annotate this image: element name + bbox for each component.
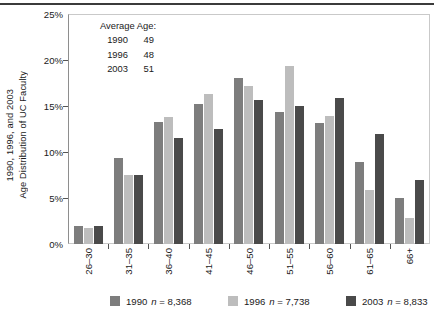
annotation-value: 49 bbox=[128, 33, 154, 47]
legend-n-value: n = 8,833 bbox=[387, 296, 427, 307]
annotation-value: 51 bbox=[128, 62, 154, 76]
legend-item[interactable]: 2003n = 8,833 bbox=[346, 296, 428, 307]
y-axis-title: 1990, 1996, and 2003 Age Distribution of… bbox=[2, 30, 32, 240]
bar bbox=[244, 86, 253, 244]
y-axis-tick-label: 0% bbox=[30, 239, 63, 250]
legend-swatch bbox=[346, 296, 356, 306]
bar bbox=[335, 98, 344, 244]
y-axis-tick-label: 5% bbox=[30, 193, 63, 204]
bar bbox=[375, 134, 384, 244]
bar-group bbox=[309, 14, 349, 244]
legend-swatch bbox=[110, 296, 120, 306]
bar bbox=[114, 158, 123, 244]
bar bbox=[415, 180, 424, 244]
bar bbox=[84, 228, 93, 244]
bar bbox=[124, 175, 133, 244]
annotation-title: Average Age: bbox=[100, 19, 156, 33]
bar bbox=[405, 218, 414, 244]
bar bbox=[295, 106, 304, 244]
bar-group bbox=[269, 14, 309, 244]
annotation-value: 48 bbox=[128, 48, 154, 62]
bar-group bbox=[189, 14, 229, 244]
bar bbox=[194, 104, 203, 244]
y-axis-tick-label: 15% bbox=[30, 101, 63, 112]
bar bbox=[325, 116, 334, 244]
legend-label: 1996 bbox=[244, 296, 265, 307]
annotation-row: 200351 bbox=[92, 62, 156, 76]
bar bbox=[395, 198, 404, 244]
bar bbox=[365, 190, 374, 244]
annotation-rows: 199049199648200351 bbox=[92, 33, 156, 76]
y-axis-title-line-1: Age Distribution of UC Faculty bbox=[17, 71, 30, 199]
bar bbox=[74, 226, 83, 244]
bar bbox=[204, 94, 213, 244]
y-axis-tick-label: 10% bbox=[30, 147, 63, 158]
legend-n-value: n = 7,738 bbox=[269, 296, 309, 307]
annotation-row: 199648 bbox=[92, 48, 156, 62]
bar bbox=[214, 129, 223, 244]
annotation-year: 1996 bbox=[92, 48, 128, 62]
legend-label: 1990 bbox=[126, 296, 147, 307]
bar bbox=[315, 123, 324, 244]
bar bbox=[164, 117, 173, 244]
legend-swatch bbox=[228, 296, 238, 306]
bar bbox=[154, 122, 163, 244]
bar bbox=[174, 138, 183, 244]
annotation-year: 1990 bbox=[92, 33, 128, 47]
bar bbox=[134, 175, 143, 244]
average-age-annotation: Average Age: 199049199648200351 bbox=[92, 19, 156, 77]
top-divider-rule bbox=[0, 3, 434, 5]
legend-item[interactable]: 1996n = 7,738 bbox=[228, 296, 310, 307]
annotation-year: 2003 bbox=[92, 62, 128, 76]
legend-n-value: n = 8,368 bbox=[151, 296, 191, 307]
bar bbox=[275, 112, 284, 244]
bar-group bbox=[229, 14, 269, 244]
bar bbox=[94, 226, 103, 244]
bar-group bbox=[390, 14, 430, 244]
bar-group bbox=[350, 14, 390, 244]
bar bbox=[285, 66, 294, 244]
y-axis-tick-labels: 0%5%10%15%20%25% bbox=[30, 0, 63, 315]
bar bbox=[234, 78, 243, 244]
annotation-row: 199049 bbox=[92, 33, 156, 47]
bar bbox=[355, 162, 364, 244]
legend-item[interactable]: 1990n = 8,368 bbox=[110, 296, 192, 307]
y-axis-tick-label: 20% bbox=[30, 55, 63, 66]
x-axis-tick-labels: 26–3031–3536–4041–4546–5051–5556–6061–65… bbox=[68, 248, 430, 290]
legend-label: 2003 bbox=[362, 296, 383, 307]
chart-legend: 1990n = 8,3681996n = 7,7382003n = 8,833 bbox=[68, 292, 434, 310]
y-axis-tick-label: 25% bbox=[30, 9, 63, 20]
bar bbox=[254, 100, 263, 244]
y-axis-title-line-2: 1990, 1996, and 2003 bbox=[4, 89, 17, 181]
